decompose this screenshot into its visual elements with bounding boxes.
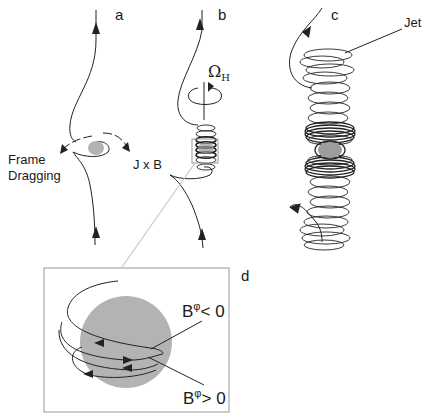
frame-dragging-line2: Dragging — [8, 168, 61, 184]
black-hole-a — [88, 141, 104, 155]
omega-symbol: Ω — [208, 62, 221, 81]
zoom-connector — [122, 163, 195, 267]
panel-a-field-lines — [70, 10, 109, 245]
panel-b-field-lines — [170, 10, 212, 248]
panel-label-d: d — [241, 267, 249, 284]
arrow-up-icon — [289, 203, 303, 216]
b-phi-positive-label: Bφ> 0 — [183, 387, 226, 409]
arrow-up-icon — [92, 226, 100, 238]
black-hole-b — [198, 142, 214, 154]
arrow-left-icon — [83, 370, 93, 378]
panel-label-a: a — [115, 6, 123, 23]
omega-subscript: H — [221, 72, 230, 83]
arrow-up-icon — [92, 22, 100, 34]
arrow-right-icon — [122, 142, 130, 152]
panel-label-b: b — [218, 6, 226, 23]
arrow-rotate-icon — [208, 82, 214, 92]
frame-dragging-line1: Frame — [8, 152, 61, 168]
arrow-up-icon — [196, 18, 204, 30]
b-positive-base: B — [183, 389, 194, 408]
arrow-up-icon — [198, 228, 206, 240]
b-negative-base: B — [182, 302, 193, 321]
b-phi-negative-label: Bφ< 0 — [182, 300, 225, 322]
jxb-label: J x B — [133, 157, 162, 173]
jet-label: Jet — [404, 15, 421, 31]
black-hole-c — [318, 142, 342, 158]
frame-dragging-label: Frame Dragging — [8, 152, 61, 184]
black-hole-d — [80, 296, 172, 388]
b-negative-rel: < 0 — [200, 302, 224, 321]
rotation-circle — [188, 88, 221, 105]
b-positive-rel: > 0 — [201, 389, 225, 408]
omega-h-label: ΩH — [208, 62, 230, 83]
panel-label-c: c — [331, 6, 339, 23]
